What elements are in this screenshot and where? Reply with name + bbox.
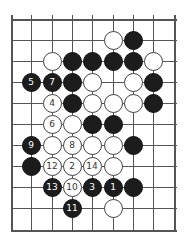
grid-line-vertical bbox=[174, 15, 176, 231]
black-stone bbox=[124, 136, 143, 155]
black-stone bbox=[63, 94, 82, 113]
white-stone bbox=[63, 115, 82, 134]
move-number: 9 bbox=[28, 141, 34, 150]
white-stone-move-4: 4 bbox=[43, 94, 62, 113]
white-stone bbox=[124, 94, 143, 113]
move-number: 8 bbox=[69, 141, 75, 150]
white-stone bbox=[144, 52, 163, 71]
black-stone bbox=[124, 52, 143, 71]
move-number: 11 bbox=[66, 204, 77, 213]
white-stone bbox=[43, 136, 62, 155]
white-stone bbox=[104, 136, 123, 155]
white-stone bbox=[83, 94, 102, 113]
white-stone bbox=[83, 73, 102, 92]
move-number: 7 bbox=[49, 78, 55, 87]
move-number: 2 bbox=[69, 162, 75, 171]
move-number: 10 bbox=[66, 183, 77, 192]
white-stone-move-14: 14 bbox=[83, 157, 102, 176]
grid-line-vertical bbox=[153, 15, 154, 231]
black-stone bbox=[63, 73, 82, 92]
white-stone bbox=[43, 52, 62, 71]
grid-line-vertical bbox=[31, 15, 32, 231]
black-stone bbox=[83, 115, 102, 134]
move-number: 12 bbox=[46, 162, 57, 171]
move-number: 5 bbox=[28, 78, 34, 87]
move-number: 13 bbox=[46, 183, 57, 192]
white-stone bbox=[124, 73, 143, 92]
go-board: 5746981221413103111 bbox=[0, 0, 187, 245]
black-stone-move-1: 1 bbox=[104, 178, 123, 197]
white-stone bbox=[104, 31, 123, 50]
black-stone-move-13: 13 bbox=[43, 178, 62, 197]
black-stone bbox=[22, 157, 41, 176]
black-stone bbox=[104, 52, 123, 71]
white-stone bbox=[104, 199, 123, 218]
black-stone-move-9: 9 bbox=[22, 136, 41, 155]
black-stone bbox=[83, 52, 102, 71]
black-stone bbox=[124, 31, 143, 50]
white-stone bbox=[104, 94, 123, 113]
white-stone-move-2: 2 bbox=[63, 157, 82, 176]
black-stone-move-11: 11 bbox=[63, 199, 82, 218]
black-stone-move-3: 3 bbox=[83, 178, 102, 197]
white-stone bbox=[104, 157, 123, 176]
black-stone-move-5: 5 bbox=[22, 73, 41, 92]
move-number: 4 bbox=[49, 99, 55, 108]
move-number: 1 bbox=[110, 183, 116, 192]
black-stone bbox=[124, 178, 143, 197]
black-stone bbox=[63, 52, 82, 71]
black-stone bbox=[144, 73, 163, 92]
white-stone-move-8: 8 bbox=[63, 136, 82, 155]
move-number: 14 bbox=[86, 162, 97, 171]
white-stone bbox=[83, 136, 102, 155]
move-number: 6 bbox=[49, 120, 55, 129]
move-number: 3 bbox=[89, 183, 95, 192]
white-stone-move-12: 12 bbox=[43, 157, 62, 176]
white-stone-move-10: 10 bbox=[63, 178, 82, 197]
white-stone-move-6: 6 bbox=[43, 115, 62, 134]
black-stone bbox=[144, 94, 163, 113]
black-stone-move-7: 7 bbox=[43, 73, 62, 92]
grid-line-vertical bbox=[11, 15, 13, 231]
black-stone bbox=[104, 115, 123, 134]
